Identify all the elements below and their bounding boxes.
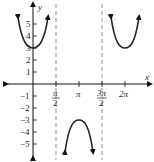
svg-text:5: 5 bbox=[26, 19, 31, 29]
x-tick-labels: π 2 π 3π 2 2π bbox=[52, 88, 129, 108]
svg-text:4: 4 bbox=[26, 31, 31, 41]
curve-branch-3 bbox=[111, 17, 139, 48]
svg-text:π: π bbox=[76, 89, 81, 99]
y-axis-label: y bbox=[37, 2, 42, 12]
svg-text:3π: 3π bbox=[96, 88, 107, 98]
svg-text:2: 2 bbox=[53, 98, 58, 108]
svg-text:−3: −3 bbox=[20, 115, 30, 125]
svg-text:2: 2 bbox=[26, 55, 31, 65]
svg-text:2π: 2π bbox=[119, 89, 129, 99]
svg-text:π: π bbox=[53, 88, 58, 98]
svg-text:−1: −1 bbox=[20, 91, 30, 101]
curve-branch-2 bbox=[65, 120, 93, 152]
svg-text:−2: −2 bbox=[20, 103, 30, 113]
svg-text:−5: −5 bbox=[20, 139, 30, 149]
svg-text:−4: −4 bbox=[20, 127, 30, 137]
secant-graph: y x 5 4 3 2 1 −1 −2 −3 −4 −5 π 2 π 3π 2 … bbox=[0, 0, 154, 162]
x-axis-label: x bbox=[144, 72, 149, 82]
svg-text:1: 1 bbox=[26, 67, 31, 77]
svg-text:2: 2 bbox=[99, 98, 104, 108]
